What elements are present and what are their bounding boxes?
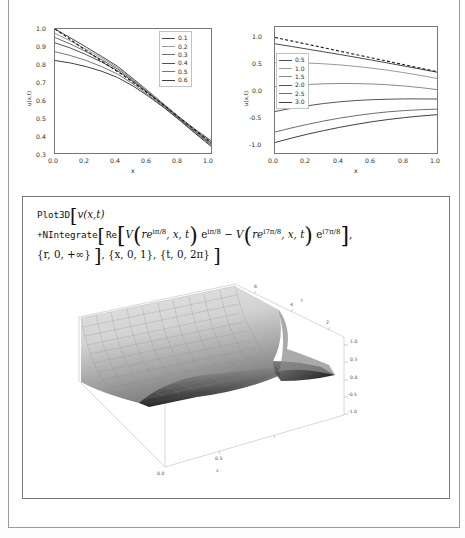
legend-item: 0.5 <box>162 68 188 76</box>
surface-plot-3d: 1.0 0.5 0.0 -0.5 -1.0 2 4 6 t 0.0 0.5 x <box>29 275 443 493</box>
legend-swatch-icon <box>279 93 292 94</box>
right-xtick-0: 0.0 <box>268 157 278 164</box>
legend-item: 0.4 <box>162 59 188 67</box>
legend-item: 1.5 <box>279 73 305 81</box>
legend-label: 0.4 <box>178 60 188 66</box>
v-args-2: , x, t <box>281 228 304 240</box>
code-formula-panel: Plot3D[v(x,t) +NIntegrate[Re[V(reiπ/8, x… <box>22 196 450 499</box>
legend-swatch-icon <box>279 76 292 77</box>
legend-label: 2.0 <box>295 82 305 88</box>
left-xtick-1: 0.2 <box>79 157 89 164</box>
right-line-chart: 1.0 0.5 0.0 -0.5 -1.0 0.0 0.2 0.4 0.6 0.… <box>228 6 458 186</box>
left-xtick-0: 0.0 <box>48 157 58 164</box>
right-ytick-3: 0.5 <box>252 60 262 67</box>
right-xtick-1: 0.2 <box>300 157 310 164</box>
p3d-xaxis-label: x <box>216 468 219 473</box>
p3d-ztick-0_5: 0.5 <box>350 357 357 362</box>
right-chart-legend: 0.5 1.0 1.5 2.0 2.5 <box>276 53 309 109</box>
legend-label: 0.1 <box>178 35 188 41</box>
right-ytick-2: 0.0 <box>252 87 262 94</box>
legend-item: 0.3 <box>162 51 188 59</box>
t-range: {t, 0, 2π} <box>160 248 210 260</box>
formula-line-2: +NIntegrate[Re[V(reiπ/8, x, t) eiπ/8 − V… <box>37 225 441 245</box>
legend-item: 0.5 <box>279 56 305 64</box>
formula-line-1: Plot3D[v(x,t) <box>37 205 441 225</box>
z-axis-ticks <box>344 345 348 414</box>
legend-label: 0.2 <box>178 44 188 50</box>
legend-swatch-icon <box>162 80 175 81</box>
right-xtick-5: 1.0 <box>430 157 440 164</box>
paren-close-2: ) <box>304 223 313 248</box>
p3d-ztick-n0_5: -0.5 <box>348 392 357 397</box>
figure-row: 1.0 0.9 0.8 0.7 0.6 0.5 0.4 0.3 0.0 0.2 … <box>10 6 458 186</box>
r-exponent-1: iπ/8 <box>153 228 167 236</box>
right-ytick-4: 1.0 <box>252 33 262 40</box>
bracket-open-2: [ <box>97 224 104 246</box>
left-xaxis-label: x <box>131 167 135 174</box>
legend-swatch-icon <box>279 85 292 86</box>
left-ytick-7: 1.0 <box>36 25 46 32</box>
left-ytick-3: 0.6 <box>36 97 46 104</box>
plot3d-argument: v(x,t) <box>77 208 104 220</box>
formula-line-3: {r, 0, +∞} ], {x, 0, 1}, {t, 0, 2π} ] <box>37 245 441 265</box>
p3d-ttick-6: 6 <box>254 284 257 289</box>
legend-swatch-icon <box>162 38 175 39</box>
surface-mesh <box>81 286 335 407</box>
plot3d-keyword: Plot3D <box>37 209 70 220</box>
p3d-ztick-n1_0: -1.0 <box>348 409 357 414</box>
e-exponent-1: iπ/8 <box>207 228 221 236</box>
legend-swatch-icon <box>162 54 175 55</box>
right-xtick-3: 0.6 <box>365 157 375 164</box>
e-exponent-2: i7π/8 <box>322 228 340 236</box>
right-ytick-1: -0.5 <box>249 114 261 121</box>
legend-label: 3.0 <box>295 99 305 105</box>
left-line-chart: 1.0 0.9 0.8 0.7 0.6 0.5 0.4 0.3 0.0 0.2 … <box>10 6 228 186</box>
legend-label: 1.0 <box>295 66 305 72</box>
v-args-1: , x, t <box>166 228 189 240</box>
legend-swatch-icon <box>162 63 175 64</box>
legend-label: 2.5 <box>295 91 305 97</box>
p3d-ztick-0_0: 0.0 <box>350 375 357 380</box>
x-axis-ticks <box>219 435 275 454</box>
right-xtick-4: 0.8 <box>398 157 408 164</box>
left-ytick-1: 0.4 <box>36 133 46 140</box>
left-xtick-3: 0.6 <box>141 157 151 164</box>
legend-item: 1.0 <box>279 64 305 72</box>
left-yaxis-label: u(x,t) <box>26 91 32 106</box>
legend-label: 0.3 <box>178 52 188 58</box>
left-ytick-5: 0.8 <box>36 61 46 68</box>
legend-item: 0.2 <box>162 42 188 50</box>
legend-item: 0.6 <box>162 76 188 84</box>
legend-swatch-icon <box>279 102 292 103</box>
p3d-ttick-2: 2 <box>326 320 329 325</box>
r-range: {r, 0, +∞} <box>37 248 91 260</box>
right-ytick-0: -1.0 <box>249 141 261 148</box>
left-ytick-4: 0.7 <box>36 79 46 86</box>
v-function-1: V <box>126 228 133 240</box>
legend-swatch-icon <box>279 68 292 69</box>
legend-label: 1.5 <box>295 74 305 80</box>
r-exp-base-1: re <box>142 228 153 240</box>
minus-sign: − <box>224 228 233 240</box>
legend-label: 0.5 <box>178 69 188 75</box>
p3d-xtick-0_5: 0.5 <box>215 456 222 461</box>
x-range: {x, 0, 1} <box>108 248 153 260</box>
left-xtick-4: 0.8 <box>172 157 182 164</box>
p3d-ttick-4: 4 <box>290 302 293 307</box>
p3d-xtick-0_0: 0.0 <box>157 471 164 476</box>
p3d-ztick-1_0: 1.0 <box>350 339 357 344</box>
bracket-close-3: ] <box>340 223 349 248</box>
bracket-close-2: ] <box>94 244 101 266</box>
legend-item: 3.0 <box>279 98 305 106</box>
page-root: 1.0 0.9 0.8 0.7 0.6 0.5 0.4 0.3 0.0 0.2 … <box>0 0 465 538</box>
legend-item: 2.5 <box>279 90 305 98</box>
legend-item: 2.0 <box>279 81 305 89</box>
left-chart-legend: 0.1 0.2 0.3 0.4 0.5 <box>159 31 192 87</box>
surface-canvas <box>29 275 443 493</box>
re-function: Re <box>106 229 117 240</box>
right-xtick-2: 0.4 <box>333 157 343 164</box>
legend-swatch-icon <box>162 71 175 72</box>
legend-label: 0.5 <box>295 57 305 63</box>
bracket-close-1: ] <box>213 244 220 266</box>
r-exponent-2: i7π/8 <box>263 228 281 236</box>
